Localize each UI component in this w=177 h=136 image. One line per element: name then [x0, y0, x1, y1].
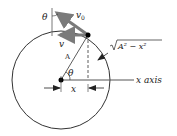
v-label: v [59, 39, 64, 49]
theta-top-label: θ [42, 12, 48, 22]
theta-center-label: θ [68, 68, 74, 78]
reference-circle-diagram: x axis A θ A² − x² v0 v θ x [0, 0, 177, 136]
x-axis-label: x axis [136, 75, 162, 85]
v0-label: v0 [76, 10, 85, 21]
x-dim-label: x [71, 84, 76, 94]
radius-label: A [64, 53, 71, 61]
moving-point [86, 33, 91, 38]
sqrt-expression: A² − x² [117, 42, 147, 51]
